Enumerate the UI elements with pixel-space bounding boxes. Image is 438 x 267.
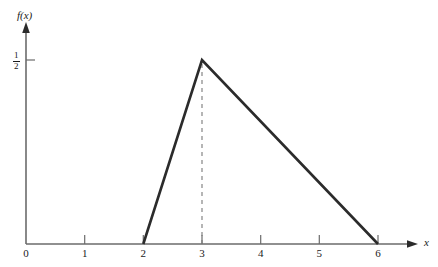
x-axis-arrowhead <box>407 240 418 248</box>
fraction-numerator: 1 <box>13 51 20 60</box>
x-tick-label-2: 2 <box>137 248 149 259</box>
y-axis-arrowhead <box>22 22 30 33</box>
y-axis-label: f(x) <box>17 10 32 21</box>
x-tick-label-5: 5 <box>313 248 325 259</box>
density-curve <box>143 60 378 244</box>
chart-canvas <box>0 0 438 267</box>
x-tick-label-4: 4 <box>255 248 267 259</box>
x-tick-label-1: 1 <box>79 248 91 259</box>
x-tick-label-3: 3 <box>196 248 208 259</box>
fraction-denominator: 2 <box>13 62 20 71</box>
x-axis-label: x <box>424 237 429 248</box>
y-tick-label-half: 1 2 <box>13 51 20 72</box>
chart-figure: f(x) x 1 2 0 1 2 3 4 5 6 <box>0 0 438 267</box>
x-tick-label-6: 6 <box>372 248 384 259</box>
x-tick-label-0: 0 <box>20 248 32 259</box>
